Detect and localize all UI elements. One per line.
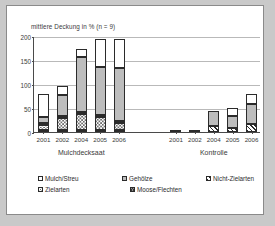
x-tick-mark: [119, 132, 120, 134]
bar-segment: [246, 124, 257, 132]
x-axis-tick-label: 2002: [55, 136, 69, 143]
group-label: Mulchdecksaat: [58, 149, 105, 156]
y-tick-mark: [32, 85, 34, 86]
x-axis-tick-label: 2005: [93, 136, 107, 143]
bar-segment: [76, 49, 87, 57]
legend-row-2: ZielartenMoose/Flechten: [38, 184, 254, 195]
y-tick-mark: [32, 61, 34, 62]
gridline: [34, 37, 260, 38]
bar-segment: [114, 123, 125, 130]
legend-label: Zielarten: [45, 186, 70, 193]
bar[interactable]: [38, 94, 49, 132]
x-axis-tick-label: 2005: [226, 136, 240, 143]
legend-swatch-icon: [38, 187, 43, 192]
gridline: [34, 85, 260, 86]
x-axis-tick-label: 2004: [207, 136, 221, 143]
legend-item[interactable]: Nicht-Zielarten: [206, 175, 254, 182]
x-tick-mark: [176, 132, 177, 134]
x-tick-mark: [252, 132, 253, 134]
y-tick-mark: [32, 133, 34, 134]
legend-label: Gehölze: [129, 175, 152, 182]
bar-segment: [227, 108, 238, 117]
legend-swatch-icon: [130, 187, 135, 192]
legend-item[interactable]: Moose/Flechten: [130, 186, 222, 193]
bar[interactable]: [57, 86, 68, 132]
gridline: [34, 109, 260, 110]
y-axis-tick-label: 0: [27, 130, 31, 137]
x-axis-tick-label: 2006: [112, 136, 126, 143]
y-tick-mark: [32, 109, 34, 110]
bar-segment: [95, 67, 106, 115]
bar-segment: [246, 104, 257, 124]
legend-swatch-icon: [206, 176, 211, 181]
chart-frame: mittlere Deckung in % (n = 9) 0501001502…: [6, 5, 264, 215]
plot-area: 0501001502002001200220042005200620012002…: [33, 37, 260, 133]
y-axis-tick-label: 100: [20, 82, 31, 89]
x-tick-mark: [195, 132, 196, 134]
bar-segment: [57, 118, 68, 130]
chart-legend: Mulch/StreuGehölzeNicht-Zielarten Zielar…: [38, 173, 254, 195]
chart-title: mittlere Deckung in % (n = 9): [31, 23, 115, 30]
bar-segment: [208, 111, 219, 126]
x-tick-mark: [43, 132, 44, 134]
x-axis-tick-label: 2001: [169, 136, 183, 143]
x-axis-tick-label: 2004: [74, 136, 88, 143]
legend-item[interactable]: Mulch/Streu: [38, 175, 122, 182]
bar-segment: [246, 94, 257, 104]
bar[interactable]: [76, 49, 87, 132]
legend-row-1: Mulch/StreuGehölzeNicht-Zielarten: [38, 173, 254, 184]
bar-segment: [76, 114, 87, 130]
x-tick-mark: [214, 132, 215, 134]
bar-segment: [114, 39, 125, 68]
group-label: Kontrolle: [200, 149, 228, 156]
x-tick-mark: [100, 132, 101, 134]
bar-segment: [38, 94, 49, 118]
bar-segment: [57, 95, 68, 116]
bar-segment: [76, 57, 87, 113]
bar-segment: [95, 117, 106, 130]
bar[interactable]: [208, 111, 219, 132]
bar[interactable]: [114, 39, 125, 132]
bar-segment: [227, 116, 238, 128]
x-axis-tick-label: 2002: [188, 136, 202, 143]
legend-item[interactable]: Zielarten: [38, 186, 130, 193]
gridline: [34, 61, 260, 62]
x-axis-tick-label: 2001: [37, 136, 51, 143]
x-tick-mark: [233, 132, 234, 134]
bar[interactable]: [246, 94, 257, 132]
stacked-bar-chart: mittlere Deckung in % (n = 9) 0501001502…: [7, 6, 263, 214]
x-tick-mark: [62, 132, 63, 134]
y-tick-mark: [32, 37, 34, 38]
legend-swatch-icon: [38, 176, 43, 181]
legend-label: Mulch/Streu: [45, 175, 79, 182]
bar-segment: [95, 39, 106, 67]
y-axis-tick-label: 50: [24, 106, 31, 113]
legend-label: Moose/Flechten: [137, 186, 182, 193]
bar-segment: [57, 86, 68, 95]
legend-item[interactable]: Gehölze: [122, 175, 206, 182]
y-axis-tick-label: 200: [20, 34, 31, 41]
x-tick-mark: [81, 132, 82, 134]
bar[interactable]: [95, 39, 106, 132]
bar-segment: [114, 68, 125, 122]
bar[interactable]: [227, 108, 238, 132]
x-axis-tick-label: 2006: [245, 136, 259, 143]
legend-label: Nicht-Zielarten: [213, 175, 254, 182]
y-axis-tick-label: 150: [20, 58, 31, 65]
legend-swatch-icon: [122, 176, 127, 181]
